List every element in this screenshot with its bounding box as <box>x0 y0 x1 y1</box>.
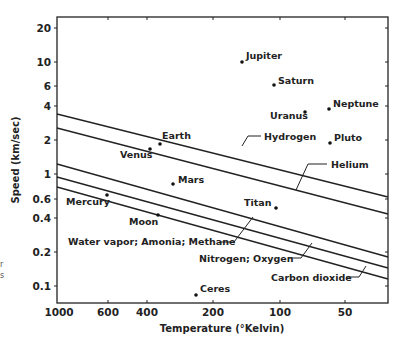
y-tick-label: 0.4 <box>32 212 51 224</box>
x-tick-label: 400 <box>136 306 158 318</box>
escape-velocity-chart: 20 10 6 4 2 1 0.6 0.4 0.2 0.1 1000 600 4… <box>0 0 400 341</box>
point-saturn <box>272 83 276 87</box>
nitrogen-oxygen-label: Nitrogen; Oxygen <box>199 253 294 264</box>
label-venus: Venus <box>120 149 153 160</box>
label-titan: Titan <box>244 197 272 208</box>
label-mars: Mars <box>178 174 205 185</box>
y-ticks <box>54 28 388 286</box>
point-earth <box>158 142 162 146</box>
y-tick-label: 20 <box>36 22 51 34</box>
label-ceres: Ceres <box>200 283 231 294</box>
x-tick-label: 50 <box>338 306 353 318</box>
y-axis-title: Speed (km/sec) <box>10 116 21 203</box>
hydrogen-line <box>57 114 388 197</box>
label-neptune: Neptune <box>333 98 379 109</box>
x-tick-label: 1000 <box>44 306 73 318</box>
label-moon: Moon <box>129 216 159 227</box>
y-tick-label: 1 <box>44 168 51 180</box>
label-jupiter: Jupiter <box>245 50 282 61</box>
x-tick-label: 100 <box>269 306 291 318</box>
x-axis-title: Temperature (°Kelvin) <box>160 323 284 334</box>
x-tick-label: 600 <box>97 306 119 318</box>
y-tick-label: 10 <box>36 56 51 68</box>
label-pluto: Pluto <box>334 132 363 143</box>
hydrogen-leader <box>242 136 261 146</box>
water-vapor-label: Water vapor; Amonia; Methane <box>68 236 235 247</box>
label-uranus: Uranus <box>270 110 308 121</box>
point-ceres <box>194 293 198 297</box>
y-tick-label: 0.6 <box>32 193 51 205</box>
carbon-dioxide-label: Carbon dioxide <box>271 272 352 283</box>
point-pluto <box>328 141 332 145</box>
label-saturn: Saturn <box>278 75 314 86</box>
point-titan <box>274 206 278 210</box>
y-tick-label: 6 <box>44 80 51 92</box>
cropped-text-fragment: s <box>0 271 4 280</box>
point-jupiter <box>240 60 244 64</box>
point-mars <box>171 182 175 186</box>
y-tick-label: 0.2 <box>32 246 51 258</box>
y-tick-label: 2 <box>44 134 51 146</box>
y-tick-label: 4 <box>44 100 51 112</box>
helium-leader <box>296 164 327 190</box>
label-earth: Earth <box>162 130 191 141</box>
label-mercury: Mercury <box>66 196 111 207</box>
y-tick-label: 0.1 <box>32 280 51 292</box>
helium-label: Helium <box>331 159 369 170</box>
hydrogen-label: Hydrogen <box>264 131 316 142</box>
cropped-text-fragment: r <box>0 260 4 269</box>
x-tick-label: 200 <box>202 306 224 318</box>
point-neptune <box>327 107 331 111</box>
